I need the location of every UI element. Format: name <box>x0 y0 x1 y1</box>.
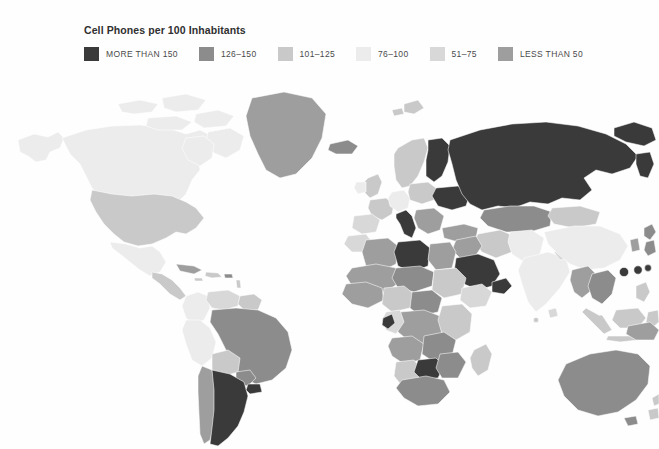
map-region-greenland <box>246 92 326 178</box>
map-region-south-africa <box>396 376 450 406</box>
map-marker-taiwan <box>634 266 642 274</box>
legend-item-label: LESS THAN 50 <box>520 49 583 59</box>
map-region-australia <box>558 350 650 416</box>
map-region-svalbard <box>392 108 404 116</box>
map-region-ireland <box>354 182 366 194</box>
legend-item-label: MORE THAN 150 <box>106 49 178 59</box>
map-region-mexico <box>110 242 166 276</box>
map-region-iceland <box>328 140 358 154</box>
map-region-mongolia <box>548 206 600 228</box>
map-region-canadian-arctic <box>194 110 234 128</box>
map-region-kamchatka <box>636 152 654 178</box>
map-region-india <box>518 252 570 312</box>
map-region-new-zealand <box>648 408 659 420</box>
legend-item-51-75: 51–75 <box>430 47 477 61</box>
legend-item-less-than-50: LESS THAN 50 <box>498 47 583 61</box>
map-region-madagascar <box>470 344 492 376</box>
legend-swatch-icon <box>356 47 371 61</box>
map-region-russia <box>448 122 638 210</box>
map-region-kazakhstan <box>480 206 552 232</box>
map-region-japan <box>644 224 656 240</box>
map-region-italy <box>396 210 416 238</box>
map-region-argentina <box>210 370 248 446</box>
map-region-svalbard <box>404 100 424 114</box>
world-map <box>0 82 659 449</box>
map-region-sri-lanka <box>548 308 558 318</box>
legend-swatch-icon <box>199 47 214 61</box>
map-marker-hong-kong <box>619 267 628 276</box>
map-marker-macau <box>645 265 652 272</box>
map-region-poland-baltics <box>408 182 436 204</box>
legend-item-101-125: 101–125 <box>278 47 336 61</box>
world-map-svg <box>0 82 659 449</box>
map-region-guyanas <box>238 294 262 310</box>
map-region-colombia <box>182 292 210 324</box>
map-region-canadian-arctic <box>146 116 192 130</box>
world-cellphone-choropleth-page: Cell Phones per 100 Inhabitants MORE THA… <box>0 0 659 449</box>
map-region-central-america <box>152 272 186 300</box>
map-region-philippines <box>636 282 650 302</box>
map-region-canadian-arctic <box>118 100 158 114</box>
legend-item-more-than-150: MORE THAN 150 <box>84 47 178 61</box>
map-region-egypt <box>428 242 456 270</box>
map-region-venezuela <box>206 290 240 310</box>
map-region-nigeria <box>382 286 414 312</box>
map-region-thailand-indochina <box>588 270 616 304</box>
map-region-new-zealand <box>652 394 659 406</box>
map-region-tasmania <box>624 416 638 426</box>
legend: MORE THAN 150 126–150 101–125 76–100 51–… <box>84 47 604 61</box>
map-region-zimbabwe-mozambique <box>436 352 466 378</box>
legend-swatch-icon <box>430 47 445 61</box>
map-region-alaska <box>18 132 64 162</box>
map-marker-maldives <box>533 317 538 322</box>
map-region-japan <box>644 240 656 256</box>
legend-item-126-150: 126–150 <box>199 47 257 61</box>
page-title: Cell Phones per 100 Inhabitants <box>84 24 604 36</box>
map-region-peru <box>182 320 216 366</box>
legend-swatch-icon <box>84 47 99 61</box>
map-region-united-states <box>90 190 204 246</box>
legend-item-label: 101–125 <box>300 49 336 59</box>
map-region-iberia <box>352 214 380 234</box>
map-region-uruguay <box>246 384 262 394</box>
map-region-jamaica <box>194 278 203 281</box>
legend-item-label: 126–150 <box>221 49 257 59</box>
legend-item-label: 51–75 <box>452 49 477 59</box>
legend-item-76-100: 76–100 <box>356 47 408 61</box>
map-region-korea <box>630 238 640 252</box>
map-region-canadian-arctic <box>162 94 206 112</box>
legend-block: Cell Phones per 100 Inhabitants MORE THA… <box>84 24 604 61</box>
map-region-balkans <box>414 208 444 234</box>
map-region-puerto-rico <box>224 274 233 278</box>
map-region-lesser-antilles <box>236 280 241 288</box>
map-region-cuba <box>176 264 202 274</box>
legend-swatch-icon <box>498 47 513 61</box>
map-region-united-kingdom <box>364 174 382 198</box>
map-region-sumatra <box>582 308 612 334</box>
legend-swatch-icon <box>278 47 293 61</box>
map-region-hispaniola <box>205 272 222 278</box>
map-region-finland <box>426 138 450 182</box>
legend-item-label: 76–100 <box>378 49 408 59</box>
map-region-norway-sweden <box>394 138 428 188</box>
